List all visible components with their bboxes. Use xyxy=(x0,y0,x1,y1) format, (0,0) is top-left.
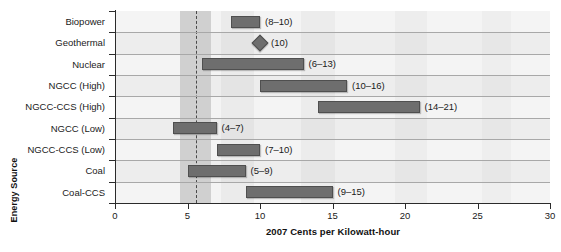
y-axis-line xyxy=(115,10,116,204)
gridline xyxy=(115,118,550,119)
gridline xyxy=(115,54,550,55)
range-bar xyxy=(318,101,420,113)
range-value-label: (8–10) xyxy=(265,16,292,28)
y-axis-tick xyxy=(109,75,116,76)
category-label: Geothermal xyxy=(55,32,105,53)
range-bar xyxy=(260,80,347,92)
range-value-label: (14–21) xyxy=(425,101,458,113)
range-bar xyxy=(246,186,333,198)
x-axis-tick xyxy=(550,204,551,209)
y-axis-tick xyxy=(109,139,116,140)
x-axis-tick xyxy=(188,204,189,209)
y-axis-tick xyxy=(109,182,116,183)
plot-area: (8–10)(10)(6–13)(10–16)(14–21)(4–7)(7–10… xyxy=(115,11,550,203)
range-value-label: (10) xyxy=(271,37,288,49)
y-axis-tick xyxy=(109,11,116,12)
range-value-label: (4–7) xyxy=(222,122,244,134)
range-bar xyxy=(173,122,217,134)
range-bar xyxy=(231,16,260,28)
range-value-label: (5–9) xyxy=(251,165,273,177)
x-axis-tick xyxy=(333,204,334,209)
x-axis-tick xyxy=(478,204,479,209)
y-axis-tick xyxy=(109,160,116,161)
x-axis-tick-label: 20 xyxy=(390,210,420,221)
x-axis-tick-label: 15 xyxy=(318,210,348,221)
x-axis-tick-label: 10 xyxy=(245,210,275,221)
category-label: NGCC (High) xyxy=(49,75,105,96)
range-bar xyxy=(188,165,246,177)
gridline xyxy=(115,160,550,161)
category-label: NGCC-CCS (Low) xyxy=(27,139,105,160)
y-axis-tick xyxy=(109,54,116,55)
y-axis-tick xyxy=(109,118,116,119)
x-axis-tick-label: 5 xyxy=(173,210,203,221)
x-axis-title: 2007 Cents per Kilowatt-hour xyxy=(115,226,551,237)
x-axis-tick-label: 25 xyxy=(463,210,493,221)
range-value-label: (10–16) xyxy=(352,80,385,92)
range-value-label: (9–15) xyxy=(338,186,365,198)
category-label: Biopower xyxy=(65,11,105,32)
chart-container: Energy Source BiopowerGeothermalNuclearN… xyxy=(0,0,561,252)
x-axis-tick xyxy=(405,204,406,209)
chart-title xyxy=(115,0,551,2)
range-bar xyxy=(217,144,261,156)
range-value-label: (7–10) xyxy=(265,144,292,156)
x-axis-tick-label: 30 xyxy=(535,210,561,221)
y-axis-tick xyxy=(109,32,116,33)
range-bar xyxy=(202,58,304,70)
category-label: Coal-CCS xyxy=(62,182,105,203)
x-axis-tick xyxy=(260,204,261,209)
gridline xyxy=(115,182,550,183)
category-label: NGCC-CCS (High) xyxy=(25,96,105,117)
gridline xyxy=(115,75,550,76)
x-axis-tick-label: 0 xyxy=(100,210,130,221)
gridline xyxy=(115,139,550,140)
category-label: Coal xyxy=(85,160,105,181)
category-label: Nuclear xyxy=(72,54,105,75)
range-value-label: (6–13) xyxy=(309,58,336,70)
gridline xyxy=(115,96,550,97)
x-axis-tick xyxy=(115,204,116,209)
category-label: NGCC (Low) xyxy=(51,118,105,139)
y-axis-tick xyxy=(109,96,116,97)
category-axis-labels: BiopowerGeothermalNuclearNGCC (High)NGCC… xyxy=(0,11,110,203)
gridline xyxy=(115,32,550,33)
